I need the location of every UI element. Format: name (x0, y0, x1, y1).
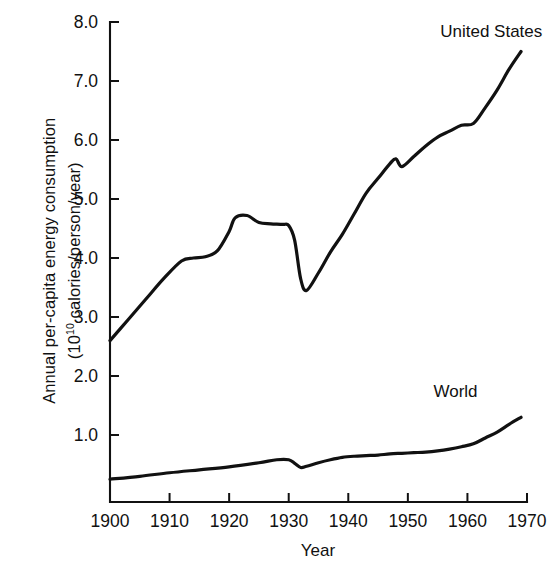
y-axis-title-line2: (1010 calories/person/year) (62, 51, 87, 471)
series-annotations: United StatesWorld (433, 22, 542, 401)
y-axis-title-line2-post: calories/person/year) (65, 162, 83, 323)
x-tick-group: 19001910192019301940195019601970 (91, 493, 547, 531)
x-tick-label: 1900 (91, 511, 130, 531)
x-axis-title: Year (301, 541, 336, 560)
series-group (110, 52, 521, 480)
y-axis-title: Annual per-capita energy consumption (10… (37, 51, 87, 471)
series-label-united-states: United States (440, 22, 542, 41)
x-tick-label: 1940 (329, 511, 368, 531)
series-line-world (110, 417, 521, 479)
y-axis-title-exponent: 10 (64, 323, 76, 335)
y-tick-label: 8.0 (74, 12, 99, 32)
energy-consumption-chart: Annual per-capita energy consumption (10… (0, 0, 555, 564)
y-axis-title-line2-pre: (10 (65, 335, 83, 359)
x-tick-label: 1920 (210, 511, 249, 531)
y-axis-title-line1: Annual per-capita energy consumption (40, 118, 58, 404)
x-tick-label: 1950 (388, 511, 427, 531)
x-tick-label: 1910 (150, 511, 189, 531)
series-label-world: World (433, 382, 477, 401)
axis-lines (110, 22, 527, 502)
x-tick-label: 1960 (448, 511, 487, 531)
series-line-united-states (110, 52, 521, 341)
x-tick-label: 1970 (508, 511, 547, 531)
x-tick-label: 1930 (269, 511, 308, 531)
